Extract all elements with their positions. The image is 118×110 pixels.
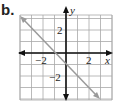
x-axis-label: x <box>104 54 110 66</box>
y-axis-label: y <box>69 4 75 16</box>
x-tick-label-2: 2 <box>86 54 92 66</box>
x-tick-label-neg2: −2 <box>35 54 47 66</box>
x-axis-left-arrow-icon <box>18 50 25 56</box>
y-axis-up-arrow-icon <box>63 6 69 13</box>
coordinate-graph: y x 2 −2 −2 2 <box>0 0 118 110</box>
y-tick-label-neg2: −2 <box>49 71 61 83</box>
y-tick-label-2: 2 <box>57 24 63 36</box>
